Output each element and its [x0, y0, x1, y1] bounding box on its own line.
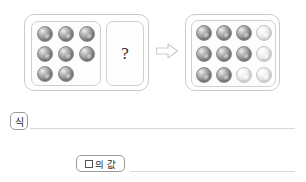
- right-group-panel: [185, 14, 280, 91]
- marble-dark: [58, 46, 74, 62]
- marble-light: [256, 67, 272, 83]
- worksheet-canvas: ? 식 의 값: [0, 0, 306, 182]
- known-marbles-box: [31, 21, 101, 86]
- marble-dark: [37, 66, 53, 82]
- unknown-quantity-box: ?: [106, 21, 144, 86]
- marble-dark: [196, 67, 212, 83]
- marble-dark: [236, 25, 252, 41]
- marble-dark: [216, 25, 232, 41]
- equation-label-tag: 식: [10, 112, 28, 130]
- marble-dark: [58, 66, 74, 82]
- marble-dark: [216, 46, 232, 62]
- equation-label-text: 식: [15, 114, 24, 129]
- marble-dark: [236, 46, 252, 62]
- box-value-label-tag: 의 값: [76, 155, 125, 172]
- marble-dark: [79, 46, 95, 62]
- total-marbles-box: [191, 20, 276, 87]
- marble-dark: [196, 46, 212, 62]
- question-mark-symbol: ?: [107, 22, 143, 85]
- marble-dark: [216, 67, 232, 83]
- marble-light: [256, 25, 272, 41]
- marble-dark: [79, 26, 95, 42]
- marble-dark: [37, 46, 53, 62]
- marble-light: [236, 67, 252, 83]
- left-group-panel: ?: [24, 14, 149, 91]
- empty-square-icon: [85, 160, 93, 168]
- marble-dark: [196, 25, 212, 41]
- box-value-label-text: 의 값: [95, 157, 116, 171]
- equation-answer-line[interactable]: [30, 128, 295, 129]
- right-arrow-icon: [155, 42, 179, 60]
- marble-dark: [58, 26, 74, 42]
- marble-dark: [37, 26, 53, 42]
- box-value-answer-line[interactable]: [130, 171, 295, 172]
- marble-light: [256, 46, 272, 62]
